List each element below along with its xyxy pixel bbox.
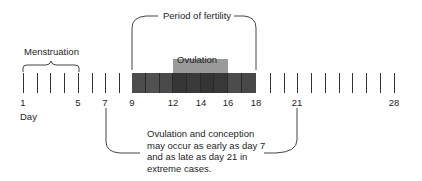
fertility-segment xyxy=(214,73,228,93)
day-tick-22 xyxy=(311,73,312,93)
day-tick-1 xyxy=(23,73,24,93)
extreme-bracket-left xyxy=(106,108,140,153)
fertility-segment xyxy=(228,73,242,93)
day-tick-3 xyxy=(50,73,51,93)
day-tick-4 xyxy=(64,73,65,93)
fertility-segment xyxy=(160,73,173,93)
fertility-segment xyxy=(201,73,214,93)
day-tick-20 xyxy=(284,73,285,93)
note-line: and as late as day 21 in xyxy=(147,151,265,163)
day-label-5: 5 xyxy=(75,97,80,108)
day-tick-27 xyxy=(380,73,381,93)
day-label-12: 12 xyxy=(168,97,179,108)
day-label-28: 28 xyxy=(389,97,400,108)
ovulation-label: Ovulation xyxy=(177,54,217,65)
day-tick-25 xyxy=(352,73,353,93)
menstruation-label: Menstruation xyxy=(24,46,79,57)
extreme-cases-note: Ovulation and conception may occur as ea… xyxy=(147,128,265,174)
extreme-bracket-right xyxy=(264,108,297,153)
day-tick-26 xyxy=(366,73,367,93)
fertility-segment xyxy=(132,73,146,93)
day-label-9: 9 xyxy=(129,97,134,108)
fertility-segment xyxy=(242,73,256,93)
day-tick-8 xyxy=(119,73,120,93)
fertility-segment xyxy=(173,73,187,93)
day-label-21: 21 xyxy=(292,97,303,108)
fertility-segment xyxy=(187,73,201,93)
day-tick-23 xyxy=(325,73,326,93)
day-tick-21 xyxy=(297,73,298,93)
note-line: extreme cases. xyxy=(147,163,265,175)
day-axis-label: Day xyxy=(20,111,37,122)
day-tick-5 xyxy=(78,73,79,93)
fertility-bracket-left xyxy=(132,16,158,70)
day-label-1: 1 xyxy=(20,97,25,108)
menstruation-brace xyxy=(23,61,79,72)
fertility-segment xyxy=(146,73,160,93)
day-tick-24 xyxy=(339,73,340,93)
day-label-14: 14 xyxy=(196,97,207,108)
note-line: may occur as early as day 7 xyxy=(147,140,265,152)
note-line: Ovulation and conception xyxy=(147,128,265,140)
day-tick-7 xyxy=(105,73,106,93)
day-label-18: 18 xyxy=(251,97,262,108)
period-of-fertility-label: Period of fertility xyxy=(163,10,231,21)
day-tick-28 xyxy=(394,73,395,93)
day-tick-6 xyxy=(92,73,93,93)
day-label-16: 16 xyxy=(223,97,234,108)
day-tick-19 xyxy=(270,73,271,93)
day-label-7: 7 xyxy=(102,97,107,108)
fertility-bracket-right xyxy=(234,16,256,70)
day-tick-2 xyxy=(37,73,38,93)
